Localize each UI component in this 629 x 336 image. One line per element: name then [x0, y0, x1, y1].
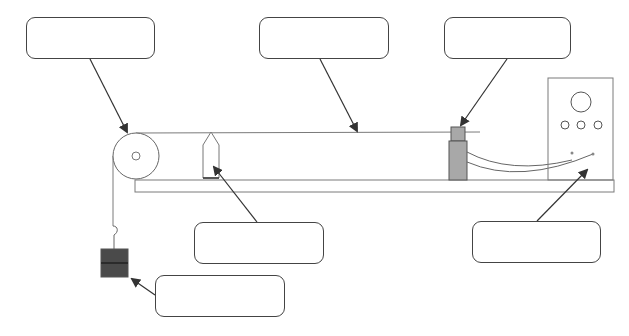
- interface-port-1: [561, 121, 569, 129]
- cable-end-lower: [592, 153, 595, 156]
- cart-label-box[interactable]: [194, 222, 324, 264]
- string-label-box[interactable]: [259, 17, 389, 59]
- string: [136, 132, 480, 133]
- cable-lower: [467, 154, 593, 172]
- interface-box: [548, 78, 613, 180]
- arrow-to-cart: [214, 167, 257, 222]
- arrow-to-string: [320, 59, 357, 131]
- sensor-label-box[interactable]: [444, 17, 571, 59]
- arrow-to-pulley: [90, 59, 127, 132]
- arrow-to-interface: [537, 170, 587, 221]
- arrow-to-mass: [132, 279, 155, 295]
- cable-end-upper: [571, 152, 574, 155]
- motion-sensor: [449, 127, 467, 180]
- pulley: [113, 133, 159, 179]
- hook: [113, 226, 117, 249]
- cable-upper: [467, 152, 572, 166]
- hanging-mass: [101, 249, 128, 277]
- interface-port-3: [594, 121, 602, 129]
- mass-label-box[interactable]: [155, 275, 285, 317]
- pulley-axle: [132, 152, 140, 160]
- arrow-to-sensor: [461, 59, 507, 125]
- pulley-label-box[interactable]: [26, 17, 155, 59]
- interface-dial: [571, 92, 591, 112]
- sensor-body: [449, 141, 467, 180]
- track: [135, 180, 614, 192]
- sensor-head: [451, 127, 465, 141]
- interface-port-2: [577, 121, 585, 129]
- interface-label-box[interactable]: [472, 221, 601, 263]
